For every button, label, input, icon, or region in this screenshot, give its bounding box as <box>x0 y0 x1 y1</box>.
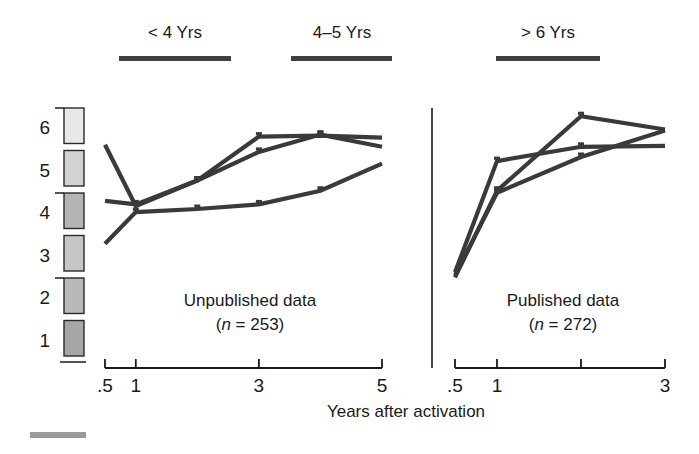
panel-published-xaxis: .513 <box>447 359 670 396</box>
x-tick-label-unpublished-3: 5 <box>377 375 388 396</box>
y-scalebar-segment-1 <box>64 321 84 357</box>
y-scalebar-segment-4 <box>64 193 84 229</box>
footer-rule <box>30 432 86 438</box>
panel-unpublished-lines <box>105 130 382 244</box>
panel-unpublished: .5135 Unpublished data (n = 253) <box>97 130 387 396</box>
panel-unpublished-annotation-title: Unpublished data <box>184 291 317 310</box>
series-marker-published-1-2 <box>578 112 584 115</box>
legend-label-2: > 6 Yrs <box>521 23 575 42</box>
series-marker-unpublished-1-1 <box>133 200 139 203</box>
series-marker-published-0-2 <box>578 142 584 145</box>
panel-published-annotation-n: (n = 272) <box>529 315 598 334</box>
legend-item-1: 4–5 Yrs <box>291 23 392 61</box>
x-tick-label-unpublished-2: 3 <box>254 375 265 396</box>
n-value-right: = 272) <box>544 315 597 334</box>
series-marker-published-2-2 <box>578 153 584 156</box>
x-tick-label-published-0: .5 <box>447 375 463 396</box>
y-scalebar-segment-5 <box>64 151 84 187</box>
n-symbol-right: n <box>534 315 543 334</box>
x-tick-label-unpublished-0: .5 <box>97 375 113 396</box>
y-tick-label-4: 4 <box>39 202 50 223</box>
figure-container: < 4 Yrs 4–5 Yrs > 6 Yrs 123456 .5135 Unp <box>0 0 699 454</box>
x-tick-label-published-1: 1 <box>492 375 503 396</box>
y-scalebar <box>60 108 86 362</box>
panel-published: .513 Published data (n = 272) <box>447 112 670 396</box>
y-tick-label-3: 3 <box>39 245 50 266</box>
legend-bar-0 <box>119 56 231 61</box>
y-tick-marks <box>55 108 64 278</box>
line-chart-svg: < 4 Yrs 4–5 Yrs > 6 Yrs 123456 .5135 Unp <box>0 0 699 454</box>
y-axis: 123456 <box>39 108 86 362</box>
n-value-left: = 253) <box>231 315 284 334</box>
panel-published-lines <box>455 112 665 278</box>
n-symbol-left: n <box>221 315 230 334</box>
y-tick-labels: 123456 <box>39 117 50 350</box>
panel-published-annotation-title: Published data <box>507 291 620 310</box>
legend-label-1: 4–5 Yrs <box>313 23 371 42</box>
legend-bar-2 <box>496 56 600 61</box>
series-marker-unpublished-2-3 <box>256 200 262 203</box>
y-scalebar-segment-6 <box>64 108 84 144</box>
panel-unpublished-xaxis: .5135 <box>97 359 387 396</box>
series-marker-unpublished-0-3 <box>256 147 262 150</box>
y-tick-label-5: 5 <box>39 160 50 181</box>
y-tick-label-1: 1 <box>39 330 50 351</box>
series-marker-published-2-1 <box>494 188 500 191</box>
legend-item-2: > 6 Yrs <box>496 23 600 61</box>
series-marker-unpublished-1-2 <box>194 176 200 179</box>
series-line-unpublished-1 <box>105 136 382 205</box>
x-tick-label-published-3: 3 <box>660 375 671 396</box>
panel-unpublished-annotation-n: (n = 253) <box>216 315 285 334</box>
series-marker-unpublished-1-4 <box>317 131 323 134</box>
x-axis-title: Years after activation <box>327 402 485 421</box>
series-marker-published-0-1 <box>494 157 500 160</box>
y-scalebar-segment-3 <box>64 236 84 272</box>
y-tick-label-6: 6 <box>39 117 50 138</box>
y-scalebar-segment-2 <box>64 278 84 314</box>
legend-item-0: < 4 Yrs <box>119 23 231 61</box>
legend-label-0: < 4 Yrs <box>148 23 202 42</box>
x-tick-label-unpublished-1: 1 <box>131 375 142 396</box>
series-marker-unpublished-2-4 <box>317 186 323 189</box>
legend-bar-1 <box>291 56 392 61</box>
series-marker-unpublished-2-2 <box>194 205 200 208</box>
y-tick-label-2: 2 <box>39 287 50 308</box>
legend: < 4 Yrs 4–5 Yrs > 6 Yrs <box>119 23 600 61</box>
series-marker-unpublished-1-3 <box>256 132 262 135</box>
series-marker-unpublished-2-1 <box>133 208 139 211</box>
